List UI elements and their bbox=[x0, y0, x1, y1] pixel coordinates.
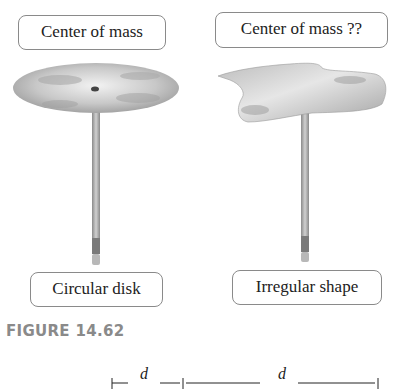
circular-disk bbox=[13, 63, 179, 113]
right-pencil bbox=[301, 112, 309, 262]
irregular-shape bbox=[218, 63, 386, 122]
dimension-label-d-1: d bbox=[140, 365, 148, 383]
left-pencil bbox=[92, 110, 100, 265]
dimension-lines bbox=[112, 378, 378, 389]
figure-caption: FIGURE 14.62 bbox=[6, 322, 124, 340]
center-of-mass-dot bbox=[91, 87, 99, 92]
label-center-of-mass: Center of mass bbox=[18, 15, 166, 50]
dimension-label-d-2: d bbox=[278, 365, 286, 383]
label-center-of-mass-unknown: Center of mass ?? bbox=[215, 12, 388, 48]
label-circular-disk: Circular disk bbox=[30, 272, 163, 307]
label-irregular-shape: Irregular shape bbox=[232, 270, 382, 305]
